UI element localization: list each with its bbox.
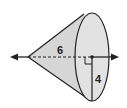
height-label: 6 bbox=[57, 44, 63, 56]
cone-diagram: 6 4 bbox=[0, 0, 127, 108]
arrow-left-icon bbox=[10, 54, 18, 61]
radius-label: 4 bbox=[95, 73, 102, 85]
arrow-right-icon bbox=[111, 54, 119, 61]
